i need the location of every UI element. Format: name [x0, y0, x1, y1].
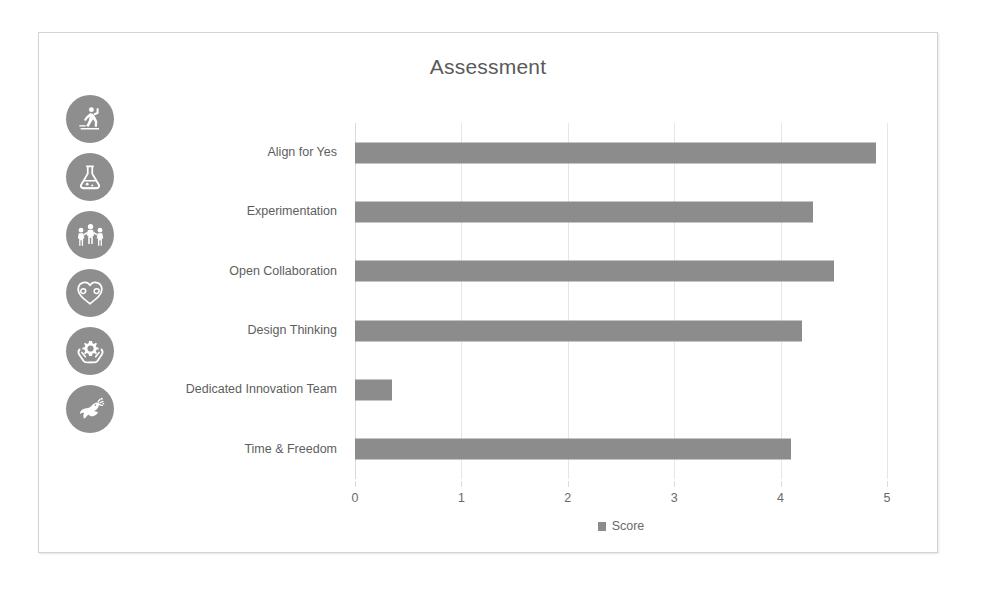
bar-open-collaboration[interactable]: [355, 261, 834, 282]
bar-row: [355, 360, 887, 419]
gridline-5: [887, 123, 888, 479]
bar-design-thinking[interactable]: [355, 320, 802, 341]
bar-time-and-freedom[interactable]: [355, 439, 791, 460]
flask-icon: [66, 153, 114, 201]
bar-row: [355, 242, 887, 301]
x-axis: 0 1 2 3 4 5: [355, 481, 887, 507]
bar-row: [355, 301, 887, 360]
bar-row: [355, 123, 887, 182]
x-tick-label: 5: [884, 491, 891, 505]
bar-align-for-yes[interactable]: [355, 142, 876, 163]
category-label: Time & Freedom: [107, 442, 337, 456]
plot-area: Align for Yes Experimentation Open Colla…: [179, 89, 919, 559]
runner-icon: [66, 95, 114, 143]
chart-title: Assessment: [39, 55, 937, 79]
chart-frame: Assessment: [38, 32, 938, 553]
plot-grid: [355, 123, 887, 479]
people-group-icon: [66, 211, 114, 259]
x-tick-label: 3: [671, 491, 678, 505]
legend-label-score: Score: [612, 519, 645, 533]
category-label: Experimentation: [107, 204, 337, 218]
category-label: Open Collaboration: [107, 264, 337, 278]
bar-dedicated-innovation-team[interactable]: [355, 379, 392, 400]
screenshot-root: Assessment: [0, 0, 985, 600]
x-tick-label: 0: [352, 491, 359, 505]
bar-experimentation[interactable]: [355, 201, 813, 222]
bar-row: [355, 182, 887, 241]
category-label: Dedicated Innovation Team: [107, 382, 337, 396]
category-label: Align for Yes: [107, 145, 337, 159]
chart-legend: Score: [355, 519, 887, 533]
bar-row: [355, 420, 887, 479]
x-tick-label: 1: [458, 491, 465, 505]
category-label: Design Thinking: [107, 323, 337, 337]
category-axis-labels: Align for Yes Experimentation Open Colla…: [179, 89, 347, 479]
x-tick-label: 2: [564, 491, 571, 505]
x-tick-label: 4: [777, 491, 784, 505]
legend-swatch-score: [598, 522, 606, 531]
